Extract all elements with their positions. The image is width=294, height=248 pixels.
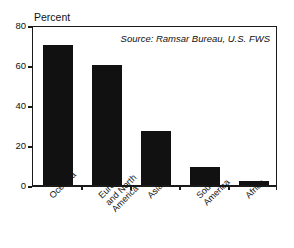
y-tick-mark: [28, 186, 32, 188]
x-tick-mark: [81, 186, 83, 190]
y-tick-mark: [28, 146, 32, 148]
bar-chart-figure: Percent Source: Ramsar Bureau, U.S. FWS …: [0, 0, 294, 248]
y-tick-20: 20: [0, 146, 32, 147]
plot-area: Source: Ramsar Bureau, U.S. FWS: [32, 26, 277, 186]
y-tick-mark: [28, 26, 32, 28]
y-tick-60: 60: [0, 66, 32, 67]
y-tick-label: 60: [15, 60, 26, 71]
x-tick-mark: [179, 186, 181, 190]
y-tick-mark: [28, 66, 32, 68]
y-tick-80: 80: [0, 26, 32, 27]
x-tick-mark: [276, 186, 278, 190]
bar-europe-and-north-america: [92, 65, 122, 185]
y-tick-label: 80: [15, 20, 26, 31]
y-tick-label: 0: [21, 180, 26, 191]
y-tick-0: 0: [0, 186, 32, 187]
source-annotation: Source: Ramsar Bureau, U.S. FWS: [121, 33, 270, 44]
bar-asia: [141, 131, 171, 185]
y-tick-40: 40: [0, 106, 32, 107]
y-tick-label: 40: [15, 100, 26, 111]
bar-oceania: [43, 45, 73, 185]
y-axis-label: Percent: [34, 11, 70, 23]
y-tick-label: 20: [15, 140, 26, 151]
y-tick-mark: [28, 106, 32, 108]
